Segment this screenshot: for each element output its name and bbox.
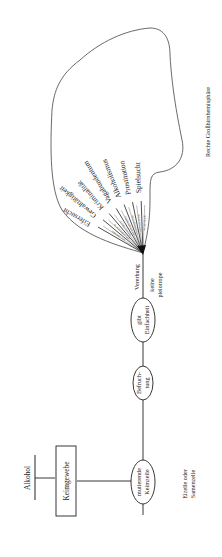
trait-label: Spielsucht [133, 161, 143, 193]
node-einfachheit-line1: gibt [135, 315, 142, 325]
cell-note-line1: Eizelle oder [181, 469, 188, 499]
diagram-canvas: Eifersucht GenGewalttätigkeit GenKrimina… [0, 0, 222, 557]
node-mutierende-line2: Keimzelle [143, 469, 150, 495]
node-befruchtung-line2: tung [143, 377, 150, 388]
keimgewebe-label: Keimgewebe [62, 461, 71, 501]
gene-label: Spielsucht Gen [143, 215, 147, 232]
cell-note-line2: Samenzelle [189, 469, 196, 498]
node-einfachheit-line2: Einfachheit [143, 305, 150, 334]
pleiotropy-label-line1: keine [148, 278, 155, 292]
region-label: Rechte Großhirnhemisphäre [204, 87, 211, 157]
inheritance-label: Vererbung [133, 264, 140, 290]
alcohol-label: Alkohol [23, 466, 32, 490]
pleiotropy-label-line2: pleiotrope [156, 272, 163, 297]
node-befruchtung-line1: Befruch- [135, 372, 142, 394]
node-mutierende-line1: mutierende [135, 468, 142, 496]
trait-labels: EifersuchtGewalttätigkeitKriminalitätVag… [57, 158, 143, 229]
